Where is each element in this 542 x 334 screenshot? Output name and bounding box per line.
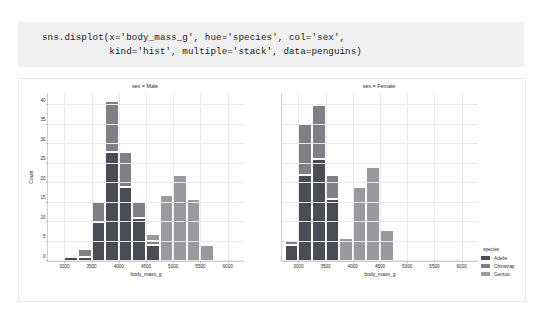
legend-swatch-icon (481, 264, 490, 268)
gridline-horizontal (48, 124, 244, 125)
bar-segment-gentoo (353, 187, 367, 261)
y-tick-mark (46, 221, 48, 222)
x-tick-label: 5500 (429, 264, 439, 269)
gridline-horizontal (282, 143, 478, 144)
x-tick-label: 3500 (86, 264, 96, 269)
bar-segment-gentoo (187, 199, 201, 262)
gridline-horizontal (48, 221, 244, 222)
x-tick-mark (146, 261, 147, 263)
y-tick-label: 35 (40, 117, 45, 122)
gridline-horizontal (48, 182, 244, 183)
legend: species AdelieChinstrapGentoo (481, 247, 515, 280)
bar-segment-adelie (312, 159, 326, 261)
x-tick-mark (407, 261, 408, 263)
gridline-horizontal (282, 241, 478, 242)
x-tick-mark (64, 261, 65, 263)
bar-segment-chinstrap (312, 105, 326, 160)
x-axis-label: body_mass_g (282, 271, 478, 277)
y-tick-mark (46, 143, 48, 144)
histogram-bar (160, 195, 174, 261)
code-line-1: sns.displot(x='body_mass_g', hue='specie… (42, 32, 345, 43)
histogram-bar (380, 230, 394, 261)
legend-swatch-icon (481, 272, 490, 276)
bar-segment-adelie (119, 187, 133, 261)
facet-title: sex = Female (281, 83, 477, 89)
histogram-bar (353, 187, 367, 261)
legend-entry: Adelie (481, 256, 515, 261)
x-tick-mark (434, 261, 435, 263)
y-tick-mark (46, 260, 48, 261)
bar-segment-gentoo (200, 245, 214, 261)
y-tick-label: 40 (40, 97, 45, 102)
gridline-horizontal (282, 221, 478, 222)
x-tick-label: 6000 (223, 264, 233, 269)
y-tick-label: 20 (40, 175, 45, 180)
x-tick-mark (92, 261, 93, 263)
x-axis-label: body_mass_g (48, 271, 244, 277)
x-tick-label: 5500 (195, 264, 205, 269)
facet-title: sex = Male (47, 83, 243, 89)
x-tick-label: 3000 (59, 264, 69, 269)
bar-segment-chinstrap (78, 249, 92, 257)
gridline-vertical (92, 93, 93, 261)
y-axis-label: Count (28, 170, 34, 183)
gridline-horizontal (282, 124, 478, 125)
gridline-vertical (228, 93, 229, 261)
gridline-horizontal (282, 202, 478, 203)
code-cell[interactable]: sns.displot(x='body_mass_g', hue='specie… (18, 22, 524, 67)
gridline-horizontal (48, 143, 244, 144)
bar-segment-adelie (146, 245, 160, 261)
bar-segment-chinstrap (92, 202, 106, 222)
y-tick-label: 5 (43, 234, 46, 239)
x-tick-mark (380, 261, 381, 263)
y-tick-mark (46, 104, 48, 105)
histogram-bar (326, 175, 340, 261)
gridline-horizontal (48, 163, 244, 164)
y-tick-label: 0 (43, 254, 46, 259)
bar-segment-adelie (92, 222, 106, 261)
histogram-bar (200, 245, 214, 261)
legend-title: species (481, 247, 515, 252)
gridline-horizontal (48, 104, 244, 105)
bar-segment-chinstrap (326, 175, 340, 198)
gridline-vertical (200, 93, 201, 261)
y-tick-mark (46, 202, 48, 203)
histogram-bar (78, 249, 92, 261)
figure-output: sex = Male Count body_mass_g 30003500400… (18, 78, 526, 302)
legend-label: Chinstrap (494, 264, 515, 269)
x-tick-mark (326, 261, 327, 263)
gridline-vertical (462, 93, 463, 261)
gridline-horizontal (282, 182, 478, 183)
gridline-vertical (353, 93, 354, 261)
histogram-bar (105, 101, 119, 261)
legend-label: Adelie (494, 256, 507, 261)
histogram-bar (132, 202, 146, 261)
x-tick-label: 6000 (457, 264, 467, 269)
gridline-vertical (146, 93, 147, 261)
gridline-horizontal (48, 241, 244, 242)
gridline-vertical (434, 93, 435, 261)
notebook-page: sns.displot(x='body_mass_g', hue='specie… (0, 0, 542, 334)
x-tick-label: 4000 (348, 264, 358, 269)
histogram-bar (92, 202, 106, 261)
bar-segment-gentoo (380, 230, 394, 261)
bar-segment-adelie (132, 218, 146, 261)
x-tick-mark (119, 261, 120, 263)
y-tick-label: 25 (40, 156, 45, 161)
gridline-horizontal (48, 202, 244, 203)
gridline-horizontal (282, 260, 478, 261)
bar-segment-chinstrap (132, 202, 146, 218)
x-tick-mark (353, 261, 354, 263)
gridline-vertical (298, 93, 299, 261)
facet-male: sex = Male Count body_mass_g 30003500400… (47, 79, 243, 301)
histogram-bar (173, 175, 187, 261)
bar-segment-adelie (326, 199, 340, 262)
x-tick-label: 4000 (114, 264, 124, 269)
y-tick-label: 30 (40, 136, 45, 141)
x-tick-label: 5000 (168, 264, 178, 269)
bar-segment-chinstrap (298, 124, 312, 175)
legend-swatch-icon (481, 256, 490, 260)
legend-entry: Gentoo (481, 272, 515, 277)
bar-segment-adelie (285, 245, 299, 261)
legend-entry: Chinstrap (481, 264, 515, 269)
